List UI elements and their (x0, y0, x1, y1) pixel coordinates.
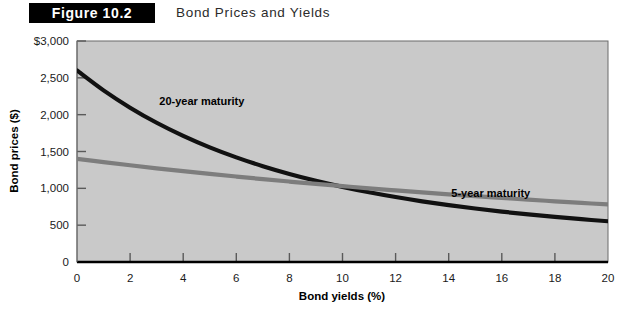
y-axis-tick-label: 500 (50, 219, 69, 231)
y-axis-tick-label: 0 (63, 256, 69, 268)
chart-container: 05001,0001,5002,0002,500$3,000 024681012… (0, 28, 644, 313)
x-axis-title: Bond yields (%) (299, 290, 385, 302)
x-axis-tick-label: 16 (495, 272, 508, 284)
figure-title: Bond Prices and Yields (176, 4, 330, 22)
series-label-5-year-maturity: 5-year maturity (451, 187, 531, 199)
x-axis-tick-label: 10 (336, 272, 349, 284)
x-axis-tick-label: 8 (286, 272, 292, 284)
y-axis-tick-label: 1,500 (40, 146, 69, 158)
x-axis-tick-label: 20 (602, 272, 615, 284)
x-axis-tick-label: 6 (233, 272, 239, 284)
x-axis-tick-label: 18 (549, 272, 562, 284)
y-axis-title: Bond prices ($) (8, 109, 20, 193)
y-axis-tick-label: 1,000 (40, 182, 69, 194)
bond-price-yield-chart: 05001,0001,5002,0002,500$3,000 024681012… (0, 28, 644, 313)
figure-number-badge: Figure 10.2 (29, 3, 155, 23)
series-label-20-year-maturity: 20-year maturity (159, 95, 245, 107)
y-axis-tick-labels: 05001,0001,5002,0002,500$3,000 (34, 35, 69, 268)
plot-area-background (77, 41, 608, 262)
x-axis-tick-label: 0 (74, 272, 80, 284)
x-axis-tick-label: 4 (180, 272, 187, 284)
x-axis-tick-label: 2 (127, 272, 133, 284)
x-axis-tick-label: 14 (442, 272, 455, 284)
figure-header: Figure 10.2 Bond Prices and Yields (0, 0, 644, 30)
y-axis-tick-label: 2,500 (40, 72, 69, 84)
y-axis-tick-label: 2,000 (40, 109, 69, 121)
x-axis-tick-label: 12 (389, 272, 402, 284)
x-axis-tick-labels: 02468101214161820 (74, 272, 615, 284)
y-axis-tick-label: $3,000 (34, 35, 69, 47)
figure-root: Figure 10.2 Bond Prices and Yields 05001… (0, 0, 644, 313)
